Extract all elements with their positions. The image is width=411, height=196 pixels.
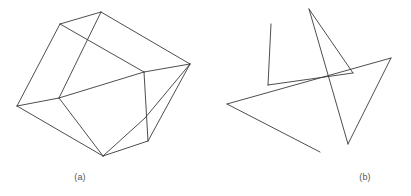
box-edge (59, 98, 103, 156)
box-edge (17, 106, 103, 156)
vertical-left-stroke (268, 24, 271, 85)
narrow-v-right-stroke (309, 9, 353, 73)
box-edge (145, 64, 190, 118)
open-wedge-stroke (227, 104, 320, 152)
figure-root: (a) (b) (0, 0, 411, 196)
box-edge (17, 98, 59, 106)
triangle-right-stroke (348, 58, 391, 144)
triangle-upper-stroke (227, 58, 391, 104)
box-edge (59, 12, 101, 98)
box-edge (144, 64, 190, 72)
long-shallow-stroke (268, 73, 353, 85)
box-edge (148, 64, 190, 141)
box-edge (17, 24, 60, 106)
box-edge (144, 72, 148, 141)
box-edge (103, 118, 145, 156)
box-edge (59, 72, 144, 98)
caption-panel-b: (b) (345, 172, 385, 182)
box-edge (101, 12, 190, 64)
wireframe-box-drawing (0, 0, 205, 170)
scattered-line-segments-drawing (205, 0, 411, 170)
figure-panel-a (0, 0, 205, 196)
box-edge (60, 12, 101, 24)
figure-panel-b (205, 0, 411, 196)
box-edge (103, 141, 148, 156)
caption-panel-a: (a) (60, 172, 100, 182)
box-edge (60, 24, 144, 72)
